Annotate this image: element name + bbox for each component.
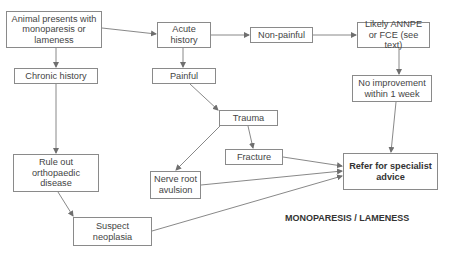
node-refer-specialist-label: Refer for specialist advice xyxy=(346,161,435,182)
edge-start-acute xyxy=(102,28,156,34)
node-chronic-history: Chronic history xyxy=(14,68,98,84)
edge-ortho-neoplasia xyxy=(58,192,73,216)
edge-fracture-refer xyxy=(283,157,342,166)
node-likely-annpe-fce: Likely ANNPE or FCE (see text) xyxy=(357,22,430,48)
node-painful-label: Painful xyxy=(170,71,198,82)
node-no-improvement-label: No improvement within 1 week xyxy=(355,78,429,99)
node-chronic-history-label: Chronic history xyxy=(25,71,86,82)
node-non-painful-label: Non-painful xyxy=(258,30,305,41)
node-suspect-neoplasia-label: Suspect neoplasia xyxy=(76,221,149,242)
node-acute-history: Acute history xyxy=(157,22,211,48)
node-painful: Painful xyxy=(152,68,216,84)
edge-avulsion-refer xyxy=(201,171,342,185)
edge-painful-trauma xyxy=(190,84,218,110)
node-trauma-label: Trauma xyxy=(233,113,264,124)
node-start-label: Animal presents with monoparesis or lame… xyxy=(9,14,99,46)
node-rule-out-orthopaedic-label: Rule out orthopaedic disease xyxy=(16,157,96,189)
node-nerve-root-avulsion-label: Nerve root avulsion xyxy=(153,174,198,195)
node-start: Animal presents with monoparesis or lame… xyxy=(6,11,102,48)
node-fracture: Fracture xyxy=(225,149,283,165)
node-refer-specialist: Refer for specialist advice xyxy=(343,153,438,190)
diagram-title: MONOPARESIS / LAMENESS xyxy=(285,213,409,223)
edge-noimprove-refer xyxy=(391,102,396,152)
node-rule-out-orthopaedic: Rule out orthopaedic disease xyxy=(13,154,99,192)
node-acute-history-label: Acute history xyxy=(160,24,208,45)
node-suspect-neoplasia: Suspect neoplasia xyxy=(73,217,152,246)
edge-trauma-fracture xyxy=(248,126,253,148)
node-trauma: Trauma xyxy=(219,110,278,126)
node-no-improvement: No improvement within 1 week xyxy=(352,75,432,102)
edge-trauma-avulsion xyxy=(176,126,220,170)
node-likely-annpe-fce-label: Likely ANNPE or FCE (see text) xyxy=(360,19,427,51)
node-non-painful: Non-painful xyxy=(250,27,313,43)
node-fracture-label: Fracture xyxy=(237,152,271,163)
node-nerve-root-avulsion: Nerve root avulsion xyxy=(150,171,201,199)
